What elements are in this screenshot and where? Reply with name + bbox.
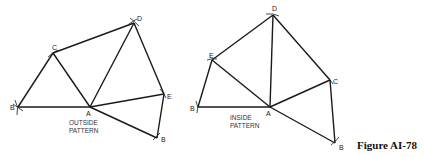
point-e-label: E: [167, 93, 172, 100]
point-a-label: A: [86, 110, 91, 117]
point-b-label: B: [10, 104, 15, 111]
point-b2-label: B: [161, 136, 166, 143]
point-c-label: C: [52, 44, 57, 51]
inside-caption-line2: PATTERN: [230, 122, 260, 129]
figure-caption: Figure AI-78: [357, 139, 417, 151]
inside-pattern: D E C B A B INSIDE PATTERN: [190, 5, 344, 151]
point-d-label: D: [272, 5, 277, 12]
diagram-canvas: C D E B A B OUTSIDE PATTERN D E C B A B …: [0, 0, 424, 157]
point-b2-label: B: [339, 144, 344, 151]
pattern-diagram: C D E B A B OUTSIDE PATTERN D E C B A B …: [0, 0, 424, 157]
outside-pattern: C D E B A B OUTSIDE PATTERN: [10, 15, 172, 143]
point-b-label: B: [190, 105, 195, 112]
outside-caption-line2: PATTERN: [69, 127, 99, 134]
outside-caption-line1: OUTSIDE: [69, 119, 99, 126]
point-d-label: D: [137, 15, 142, 22]
inside-caption-line1: INSIDE: [230, 114, 252, 121]
point-c-label: C: [333, 78, 338, 85]
point-e-label: E: [209, 52, 214, 59]
point-a-label: A: [266, 110, 271, 117]
